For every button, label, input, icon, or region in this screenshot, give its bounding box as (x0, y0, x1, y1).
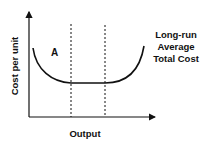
curve-label-line-2: Average (157, 41, 194, 52)
y-axis-label: Cost per unit (9, 36, 20, 95)
lratc-diagram: A Long-run Average Total Cost Output Cos… (0, 0, 204, 142)
curve-label-line-1: Long-run (155, 29, 197, 40)
curve-label-line-3: Total Cost (153, 53, 200, 64)
region-label-a: A (51, 47, 58, 58)
lratc-curve (33, 46, 144, 83)
x-axis-label: Output (69, 128, 101, 139)
